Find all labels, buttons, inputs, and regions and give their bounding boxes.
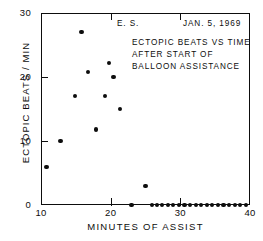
x-tick-mark-top bbox=[111, 13, 112, 20]
y-tick-mark bbox=[41, 77, 48, 78]
annotation-caption-line-3: BALLOON ASSISTANCE bbox=[132, 62, 240, 71]
data-point bbox=[216, 203, 220, 207]
x-tick-mark-top bbox=[180, 13, 181, 20]
data-point bbox=[194, 203, 198, 207]
data-point bbox=[129, 203, 133, 207]
data-point bbox=[58, 139, 62, 143]
y-tick-mark bbox=[41, 141, 48, 142]
data-point bbox=[205, 203, 209, 207]
data-point bbox=[44, 165, 48, 169]
data-point bbox=[166, 203, 170, 207]
data-point bbox=[160, 203, 164, 207]
data-point bbox=[199, 203, 203, 207]
y-axis-label: ECTOPIC BEATS / MIN bbox=[20, 15, 31, 190]
annotation-caption-line-1: ECTOPIC BEATS VS TIME bbox=[132, 38, 251, 47]
data-point bbox=[79, 30, 83, 34]
data-point bbox=[210, 203, 214, 207]
chart-figure: 010203010203040 ECTOPIC BEATS / MIN MINU… bbox=[0, 0, 263, 241]
x-tick-label: 30 bbox=[165, 207, 195, 218]
x-axis-label: MINUTES OF ASSIST bbox=[41, 221, 250, 232]
data-point bbox=[111, 75, 115, 79]
annotation-subject: E. S. bbox=[117, 19, 139, 28]
data-point bbox=[221, 203, 225, 207]
x-tick-label: 10 bbox=[26, 207, 56, 218]
x-tick-mark bbox=[111, 198, 112, 206]
data-point bbox=[227, 203, 231, 207]
data-point bbox=[233, 203, 237, 207]
data-point bbox=[118, 107, 122, 111]
data-point bbox=[155, 203, 159, 207]
data-point bbox=[150, 203, 154, 207]
data-point bbox=[143, 184, 147, 188]
data-point bbox=[94, 127, 98, 131]
data-point bbox=[244, 203, 248, 207]
annotation-date: JAN. 5, 1969 bbox=[183, 19, 241, 28]
x-tick-label: 20 bbox=[96, 207, 126, 218]
annotation-caption-line-2: AFTER START OF bbox=[132, 50, 213, 59]
x-tick-label: 40 bbox=[235, 207, 263, 218]
data-point bbox=[182, 203, 186, 207]
